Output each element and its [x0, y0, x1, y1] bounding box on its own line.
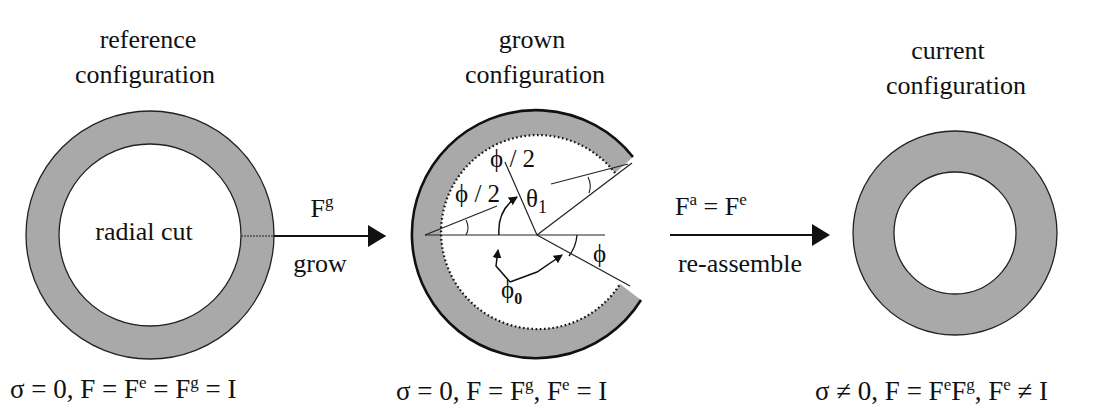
reference-configuration: reference configuration radial cut σ = 0… [10, 25, 274, 404]
grow-arrow: Fg grow [274, 192, 386, 278]
phi0-arrow [510, 255, 562, 282]
reassemble-arrow: Fa = Fe re-assemble [670, 190, 830, 278]
reference-title-line2: configuration [75, 60, 215, 89]
reference-equation: σ = 0, F = Fe = Fg = I [10, 373, 237, 404]
grow-arrowhead-icon [368, 225, 386, 247]
left-half-phi-arc [466, 220, 468, 235]
upper-half-phi-arc [588, 177, 590, 193]
reassemble-arrowhead-icon [812, 224, 830, 246]
current-title-line2: configuration [886, 71, 1026, 100]
phi-label: ϕ [593, 240, 606, 267]
theta1-arrow [499, 197, 517, 235]
theta1-label: θ1 [526, 185, 547, 217]
grown-equation: σ = 0, F = Fg, Fe = I [396, 375, 607, 406]
grown-title-line1: grown [499, 25, 565, 54]
current-equation: σ ≠ 0, F = FeFg, Fe ≠ I [815, 375, 1048, 406]
reassemble-arrow-top-label: Fa = Fe [675, 190, 747, 221]
radial-cut-label: radial cut [95, 217, 193, 246]
phi0-label: ϕ0 [501, 276, 522, 307]
growth-configuration-diagram: reference configuration radial cut σ = 0… [0, 0, 1110, 420]
half-phi-left-label: ϕ / 2 [455, 180, 500, 207]
grown-configuration: grown configuration ϕ / 2 ϕ / 2 θ1 ϕ [396, 25, 641, 406]
reassemble-arrow-bottom-label: re-assemble [678, 249, 802, 278]
current-ring [853, 131, 1057, 335]
grown-title-line2: configuration [465, 60, 605, 89]
current-configuration: current configuration σ ≠ 0, F = FeFg, F… [815, 36, 1057, 406]
half-phi-upper-label: ϕ / 2 [490, 145, 535, 172]
grow-arrow-top-label: Fg [311, 192, 334, 223]
grow-arrow-bottom-label: grow [293, 249, 347, 278]
upper-cut-ray [537, 163, 632, 235]
lower-cut-ray [537, 235, 630, 286]
reference-title-line1: reference [100, 25, 197, 54]
current-title-line1: current [911, 36, 985, 65]
